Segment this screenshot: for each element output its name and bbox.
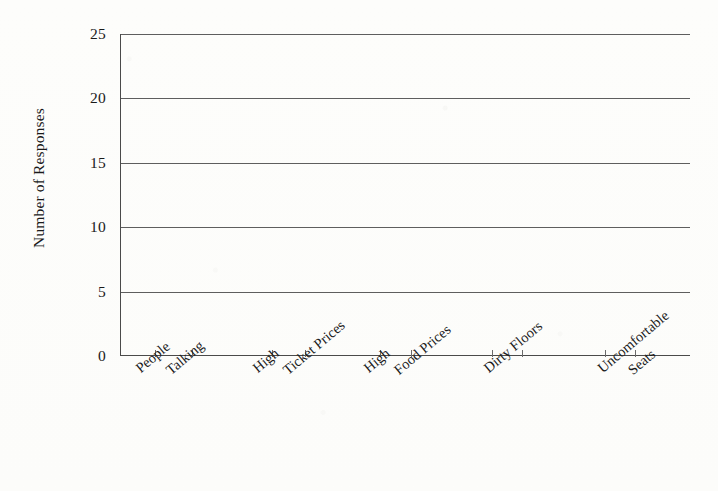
y-tick-label: 25 — [62, 26, 106, 42]
y-axis-tick-labels: 0510152025 — [62, 0, 106, 491]
plot-area — [120, 34, 690, 356]
y-axis-line — [120, 34, 121, 356]
y-axis-title: Number of Responses — [22, 0, 56, 356]
x-axis-category-labels: PeopleTalkingHighTicket PricesHighFood P… — [120, 362, 690, 482]
bars-layer — [120, 34, 690, 356]
y-tick-label: 0 — [62, 348, 106, 364]
y-tick-label: 5 — [62, 284, 106, 300]
y-tick-label: 10 — [62, 219, 106, 235]
bar-chart-figure: Number of Responses 0510152025 PeopleTal… — [0, 0, 718, 491]
y-tick-label: 20 — [62, 91, 106, 107]
y-tick-label: 15 — [62, 155, 106, 171]
